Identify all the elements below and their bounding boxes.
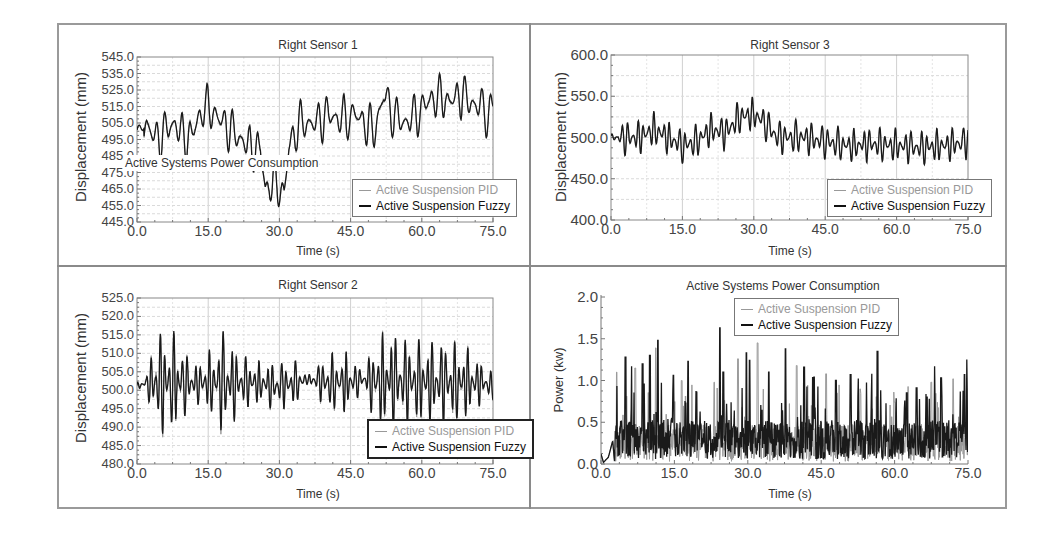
y-tick-label: 0.5 <box>538 414 598 429</box>
y-tick-label: 2.0 <box>538 289 598 304</box>
chart-title: Active Systems Power Consumption <box>686 279 879 293</box>
y-tick-label: 1.5 <box>538 331 598 346</box>
legend-item-pid: Active Suspension PID <box>741 301 892 317</box>
x-tick-label: 30.0 <box>734 466 761 480</box>
x-tick-label: 75.0 <box>954 466 981 480</box>
legend-item-fuzzy: Active Suspension Fuzzy <box>741 317 892 333</box>
x-tick-label: 0.0 <box>591 466 610 480</box>
y-tick-label: 1.0 <box>538 373 598 388</box>
plot-area-power-consumption <box>0 0 1052 539</box>
legend-swatch-pid <box>741 309 753 310</box>
legend-swatch-fuzzy <box>741 324 753 326</box>
chart-legend: Active Suspension PID Active Suspension … <box>734 298 899 336</box>
chart-power-consumption: Active Systems Power Consumption Power (… <box>0 0 1052 539</box>
y-tick-label: 0.0 <box>538 456 598 471</box>
x-tick-label: 45.0 <box>808 466 835 480</box>
x-tick-label: 15.0 <box>661 466 688 480</box>
x-axis-label: Time (s) <box>768 487 812 501</box>
x-tick-label: 60.0 <box>881 466 908 480</box>
